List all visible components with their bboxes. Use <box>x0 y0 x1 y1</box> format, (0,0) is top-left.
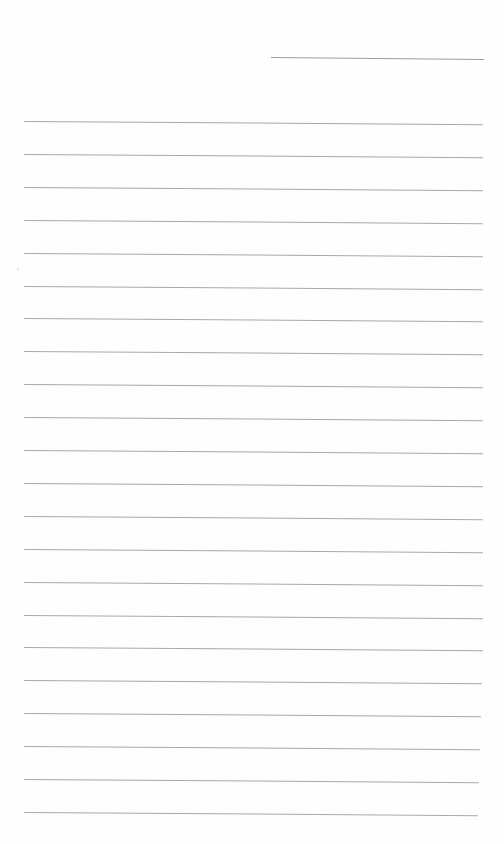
ruled-line <box>24 351 483 355</box>
lined-paper-sheet <box>0 0 504 844</box>
ruled-line <box>24 253 483 257</box>
header-name-line <box>271 57 484 60</box>
ruled-line <box>24 516 483 520</box>
ruled-line <box>24 680 482 684</box>
ruled-line <box>24 286 483 290</box>
ruled-line <box>24 483 483 487</box>
ruled-line <box>24 121 483 125</box>
ruled-line <box>24 615 483 619</box>
ruled-line <box>24 154 483 158</box>
stray-mark <box>17 268 19 270</box>
ruled-line <box>24 187 483 191</box>
ruled-line <box>24 417 483 421</box>
ruled-line <box>24 318 483 322</box>
ruled-line <box>24 647 483 651</box>
ruled-line <box>24 812 478 816</box>
ruled-line <box>24 779 479 783</box>
ruled-line <box>24 713 481 717</box>
ruled-line <box>24 450 483 454</box>
ruled-line <box>24 549 483 553</box>
ruled-line <box>24 746 480 750</box>
ruled-line <box>24 582 483 586</box>
ruled-line <box>24 220 483 224</box>
ruled-line <box>24 384 483 388</box>
